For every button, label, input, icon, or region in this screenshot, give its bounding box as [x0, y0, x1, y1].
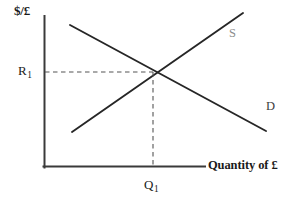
- x-axis-title: Quantity of £: [208, 159, 278, 172]
- y-axis-title: $/£: [14, 4, 30, 17]
- demand-curve-label: D: [266, 100, 275, 113]
- price-label-subscript: 1: [27, 70, 32, 80]
- price-label-text: R: [18, 63, 27, 78]
- quantity-axis-label: Q1: [144, 178, 159, 191]
- supply-curve: [72, 13, 243, 132]
- supply-demand-figure: $/£ Quantity of £ R1 Q1 S D: [0, 0, 292, 203]
- quantity-label-text: Q: [144, 177, 153, 192]
- plot-area: [0, 0, 292, 203]
- axes-group: [44, 16, 206, 168]
- price-axis-label: R1: [18, 64, 32, 77]
- quantity-label-subscript: 1: [153, 184, 158, 194]
- demand-curve: [70, 25, 266, 131]
- supply-curve-label: S: [229, 27, 236, 40]
